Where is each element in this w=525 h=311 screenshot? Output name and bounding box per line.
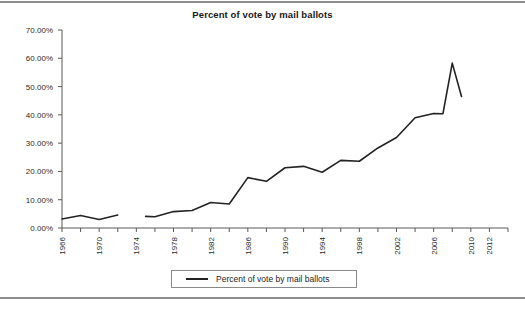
- top-divider: [0, 1, 525, 3]
- x-tick-label: 2002: [393, 236, 402, 254]
- bottom-divider: [0, 297, 525, 299]
- x-axis-ticks: 1966197019741978198219861990199419982002…: [58, 228, 508, 255]
- x-tick-label: 1998: [355, 236, 364, 254]
- y-tick-label: 30.00%: [26, 139, 53, 148]
- legend-label: Percent of vote by mail ballots: [216, 274, 329, 284]
- y-tick-label: 50.00%: [26, 83, 53, 92]
- x-tick-label: 2010: [467, 236, 476, 254]
- y-axis-ticks: 70.00%60.00%50.00%40.00%30.00%20.00%10.0…: [26, 26, 62, 233]
- y-tick-label: 40.00%: [26, 111, 53, 120]
- y-tick-label: 20.00%: [26, 167, 53, 176]
- x-tick-label: 1974: [132, 236, 141, 254]
- data-series-group: [62, 63, 489, 219]
- x-tick-label: 1986: [244, 236, 253, 254]
- chart-title: Percent of vote by mail ballots: [0, 9, 525, 20]
- plot-area: 70.00%60.00%50.00%40.00%30.00%20.00%10.0…: [0, 26, 525, 266]
- legend-line-swatch: [186, 278, 208, 280]
- y-tick-label: 10.00%: [26, 196, 53, 205]
- line-chart-svg: 70.00%60.00%50.00%40.00%30.00%20.00%10.0…: [0, 26, 525, 266]
- x-tick-label: 1994: [318, 236, 327, 254]
- y-tick-label: 0.00%: [30, 224, 53, 233]
- x-tick-label: 2012: [485, 236, 494, 254]
- x-tick-label: 1970: [95, 236, 104, 254]
- x-tick-label: 1978: [170, 236, 179, 254]
- x-tick-label: 2006: [430, 236, 439, 254]
- chart-page: Percent of vote by mail ballots 70.00%60…: [0, 0, 525, 311]
- chart-legend: Percent of vote by mail ballots: [171, 270, 357, 288]
- x-tick-label: 1990: [281, 236, 290, 254]
- y-tick-label: 70.00%: [26, 26, 53, 35]
- series-line-percent-vote-by-mail: [146, 63, 462, 217]
- x-tick-label: 1982: [207, 236, 216, 254]
- series-line-percent-vote-by-mail: [62, 215, 118, 220]
- x-tick-label: 1966: [58, 236, 67, 254]
- y-tick-label: 60.00%: [26, 54, 53, 63]
